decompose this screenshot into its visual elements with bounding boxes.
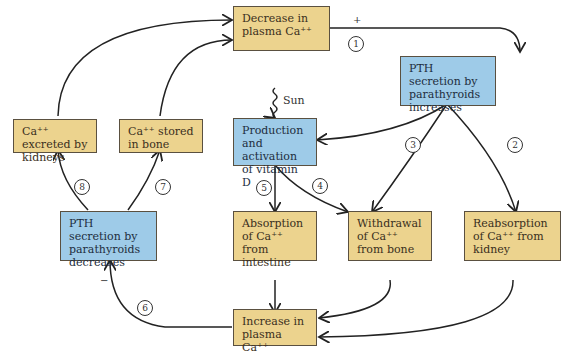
node-vitamin-d: Production and activation of vitamin D [233, 118, 317, 166]
arrow-excreted-decrease [58, 20, 232, 116]
plus-sign: + [353, 14, 361, 25]
step-5: 5 [256, 180, 272, 196]
node-withdrawal: Withdrawal of Ca⁺⁺ from bone [348, 211, 432, 261]
step-2: 2 [507, 137, 523, 153]
node-pth-increase: PTH secretion by parathyroids increases [400, 56, 496, 106]
sun-squiggle-icon [273, 88, 277, 118]
arrow-2 [447, 104, 516, 212]
node-absorption: Absorption of Ca⁺⁺ from intestine [233, 211, 317, 261]
arrow-7 [128, 150, 160, 210]
arrow-withdrawal-increase [319, 280, 390, 318]
step-3: 3 [405, 137, 421, 153]
node-decrease-plasma-ca: Decrease in plasma Ca⁺⁺ [233, 6, 330, 51]
sun-label: Sun [283, 94, 305, 107]
node-increase-plasma-ca: Increase in plasma Ca⁺⁺ [233, 309, 317, 346]
step-4: 4 [312, 178, 328, 194]
node-ca-stored: Ca⁺⁺ stored in bone [119, 119, 203, 153]
step-8: 8 [74, 179, 90, 195]
connector-arrows [0, 0, 575, 355]
arrow-reabsorption-increase [319, 280, 513, 337]
step-6: 6 [137, 300, 153, 316]
arrow-3 [372, 104, 447, 212]
step-7: 7 [155, 179, 171, 195]
node-pth-decrease: PTH secretion by parathyroids decreases [60, 211, 157, 261]
arrow-stored-decrease [160, 40, 232, 116]
arrow-6 [110, 260, 232, 327]
node-reabsorption: Reabsorption of Ca⁺⁺ from kidney [464, 211, 561, 261]
step-1: 1 [348, 36, 364, 52]
minus-sign: − [100, 275, 108, 286]
node-ca-excreted: Ca⁺⁺ excreted by kidneys [13, 119, 97, 153]
